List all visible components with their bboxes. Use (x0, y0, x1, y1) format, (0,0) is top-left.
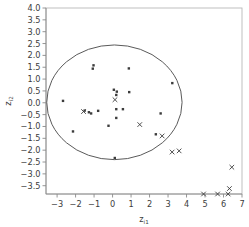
y-axis: 4.03.53.02.52.01.51.00.50.0−0.5−1.0−1.5−… (21, 3, 46, 194)
data-point-dot (115, 117, 117, 119)
data-point-dot (92, 64, 94, 66)
data-point-dot (88, 111, 90, 113)
y-tick-label: 4.0 (27, 3, 40, 13)
data-point-dot (155, 133, 157, 135)
x-axis: −3−2−101234567 (46, 194, 245, 209)
x-tick-label: 5 (202, 199, 207, 209)
x-tick-label: 6 (221, 199, 226, 209)
x-tick-label: −1 (88, 199, 100, 209)
y-tick-label: −2.5 (21, 157, 41, 167)
data-point-dot (90, 112, 92, 114)
data-point-dot (116, 90, 118, 92)
y-tick-label: 1.0 (27, 74, 40, 84)
data-point-dot (115, 94, 117, 96)
plot-canvas: −3−2−101234567 4.03.53.02.52.01.51.00.50… (0, 0, 249, 227)
y-tick-label: 2.0 (27, 50, 40, 60)
x-tick-label: 4 (184, 199, 189, 209)
y-tick-label: 3.5 (27, 15, 40, 25)
plot-frame (46, 8, 242, 194)
x-tick-label: 7 (239, 199, 244, 209)
data-point-dot (62, 100, 64, 102)
x-axis-title: zi1 (139, 214, 149, 225)
data-point-dot (115, 108, 117, 110)
y-tick-label: −0.5 (21, 110, 41, 120)
data-point-dot (107, 125, 109, 127)
data-point-dot (72, 130, 74, 132)
y-axis-title: zi2 (3, 96, 14, 105)
y-tick-label: −1.0 (21, 121, 41, 131)
x-tick-label: 0 (110, 199, 115, 209)
plot-area-rect (46, 8, 242, 194)
y-tick-label: 0.0 (27, 98, 40, 108)
data-point-dot (171, 82, 173, 84)
y-tick-label: −3.5 (21, 181, 41, 191)
data-point-dot (113, 89, 115, 91)
y-tick-label: 3.0 (27, 27, 40, 37)
y-tick-label: −1.5 (21, 133, 41, 143)
x-tick-label: 3 (165, 199, 170, 209)
scatter-plot-figure: −3−2−101234567 4.03.53.02.52.01.51.00.50… (0, 0, 249, 227)
y-tick-label: 2.5 (27, 39, 40, 49)
x-tick-label: 1 (128, 199, 133, 209)
y-tick-label: −3.0 (21, 169, 41, 179)
data-point-dot (97, 110, 99, 112)
data-point-dot (122, 108, 124, 110)
y-tick-label: 1.5 (27, 62, 40, 72)
y-tick-label: 0.5 (27, 86, 40, 96)
y-tick-label: −2.0 (21, 145, 41, 155)
data-point-dot (92, 67, 94, 69)
x-tick-label: −2 (70, 199, 82, 209)
data-point-dot (159, 112, 161, 114)
x-tick-label: −3 (51, 199, 63, 209)
x-tick-label: 2 (147, 199, 152, 209)
data-point-dot (128, 91, 130, 93)
data-point-dot (114, 157, 116, 159)
data-point-dot (128, 67, 130, 69)
